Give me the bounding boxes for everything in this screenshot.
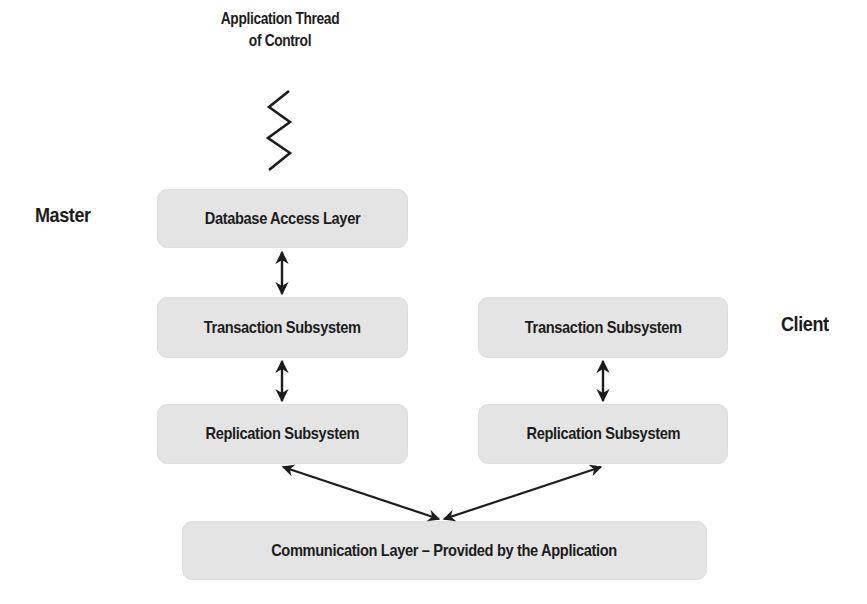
title-line-1: Application Thread bbox=[194, 8, 366, 30]
master-label: Master bbox=[35, 203, 91, 227]
client-transaction-subsystem-box: Transaction Subsystem bbox=[478, 297, 728, 358]
box-label: Communication Layer – Provided by the Ap… bbox=[272, 541, 618, 561]
master-database-access-layer-box: Database Access Layer bbox=[157, 189, 408, 248]
connectors-layer bbox=[0, 0, 867, 604]
box-label: Transaction Subsystem bbox=[204, 318, 361, 338]
master-transaction-subsystem-box: Transaction Subsystem bbox=[157, 297, 408, 358]
bidirectional-arrow-icon bbox=[444, 467, 601, 519]
box-label: Replication Subsystem bbox=[526, 424, 680, 444]
box-label: Database Access Layer bbox=[205, 209, 361, 229]
master-replication-subsystem-box: Replication Subsystem bbox=[157, 404, 408, 464]
box-label: Transaction Subsystem bbox=[525, 318, 682, 338]
zigzag-thread-icon bbox=[268, 91, 290, 170]
client-replication-subsystem-box: Replication Subsystem bbox=[478, 404, 728, 464]
communication-layer-box: Communication Layer – Provided by the Ap… bbox=[182, 521, 707, 580]
bidirectional-arrow-icon bbox=[283, 467, 439, 519]
client-label: Client bbox=[781, 312, 829, 336]
title-line-2: of Control bbox=[194, 30, 366, 52]
thread-of-control-label: Application Thread of Control bbox=[194, 8, 366, 52]
box-label: Replication Subsystem bbox=[206, 424, 360, 444]
